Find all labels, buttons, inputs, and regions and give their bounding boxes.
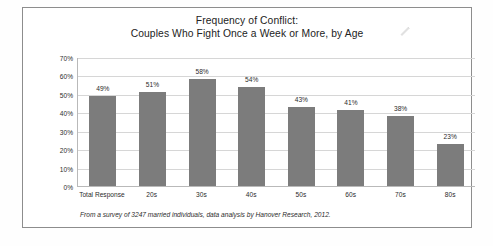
bar: 51% [139,92,166,186]
y-axis: 70%60%50%40%30%20%10%0% [41,58,73,187]
y-axis-tick-label: 40% [43,110,73,117]
x-axis-tick-label: 40s [226,189,276,203]
bar-slot: 41% [326,58,376,186]
bar: 54% [238,87,265,187]
plot-area: 49%51%58%54%43%41%38%23% [77,58,475,187]
bar-slot: 38% [376,58,426,186]
bar-value-label: 58% [195,68,208,75]
chart-frame: Frequency of Conflict: Couples Who Fight… [22,7,472,228]
x-axis-tick-label: 30s [177,189,227,203]
bar-value-label: 38% [394,105,407,112]
bar-value-label: 43% [295,96,308,103]
bar: 49% [89,96,116,186]
x-axis-tick-label: 20s [127,189,177,203]
bar-value-label: 41% [344,99,357,106]
bar-value-label: 49% [96,85,109,92]
bar-value-label: 54% [245,76,258,83]
bar: 43% [288,107,315,186]
y-axis-tick-label: 70% [43,55,73,62]
bar-value-label: 23% [444,133,457,140]
bar: 41% [337,110,364,186]
pen-mark-icon [399,24,411,36]
x-axis-tick-label: 50s [276,189,326,203]
x-axis-tick-label: 60s [326,189,376,203]
x-axis: Total Response20s30s40s50s60s70s80s [77,189,475,203]
bar-slot: 58% [177,58,227,186]
y-axis-tick-label: 20% [43,147,73,154]
page-canvas: Frequency of Conflict: Couples Who Fight… [0,0,493,246]
bar-slot: 23% [425,58,475,186]
y-axis-tick-label: 50% [43,91,73,98]
x-axis-tick-label: 80s [425,189,475,203]
bar-slot: 43% [277,58,327,186]
bar-slot: 54% [227,58,277,186]
y-axis-tick-label: 30% [43,128,73,135]
bar: 38% [387,116,414,186]
bar: 23% [437,144,464,186]
bar-slot: 49% [78,58,128,186]
x-axis-tick-label: 70s [376,189,426,203]
bar: 58% [189,79,216,186]
y-axis-tick-label: 0% [43,184,73,191]
x-axis-tick-label: Total Response [77,189,127,203]
y-axis-tick-label: 10% [43,165,73,172]
bar-slot: 51% [128,58,178,186]
chart-footnote: From a survey of 3247 married individual… [80,211,331,218]
bar-value-label: 51% [146,81,159,88]
bar-series: 49%51%58%54%43%41%38%23% [78,58,475,186]
y-axis-tick-label: 60% [43,73,73,80]
